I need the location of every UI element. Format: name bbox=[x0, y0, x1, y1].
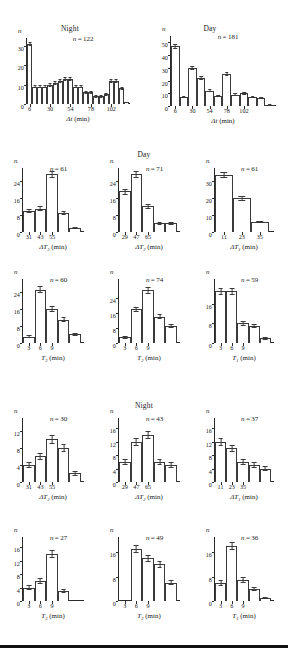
y-axis-label: n bbox=[110, 269, 114, 276]
histogram-panel-r5c1: 0481216369nn = 27T3 (min) bbox=[22, 537, 84, 601]
histogram-panel-r3c2: 081624369nn = 74T2 (min) bbox=[118, 279, 180, 343]
histogram-bar bbox=[131, 309, 143, 343]
histogram-panel-r1c1: 01020306305478102nn = 122Δt (min) bbox=[26, 38, 130, 104]
x-tick-label: 6 bbox=[230, 345, 233, 351]
y-tick-label: 4 bbox=[17, 588, 22, 594]
x-tick-label: 6 bbox=[135, 603, 138, 609]
y-tick-label: 0 bbox=[21, 104, 26, 110]
histogram-bar bbox=[171, 46, 180, 106]
y-tick-label: 0 bbox=[17, 343, 22, 349]
y-tick-label: 16 bbox=[206, 428, 214, 434]
histogram-bar bbox=[35, 209, 47, 232]
section-header-day-top: Day bbox=[150, 24, 270, 33]
y-axis-label: n bbox=[206, 269, 210, 276]
y-axis bbox=[22, 279, 23, 343]
histogram-bar bbox=[214, 96, 223, 106]
x-axis-label: Δt (min) bbox=[170, 118, 276, 125]
y-tick-label: 16 bbox=[110, 313, 118, 319]
y-axis-label: n bbox=[18, 28, 22, 35]
plot-area: 010203040506305478102 bbox=[170, 36, 276, 106]
histogram-bar bbox=[251, 222, 269, 232]
y-tick-label: 50 bbox=[162, 42, 170, 48]
x-tick-label: 29 bbox=[122, 234, 128, 240]
y-tick-label: 24 bbox=[14, 181, 22, 187]
y-tick-label: 8 bbox=[17, 326, 22, 332]
y-tick-label: 16 bbox=[206, 304, 214, 310]
x-tick-label: 3 bbox=[123, 603, 126, 609]
x-tick-label: 9 bbox=[241, 603, 244, 609]
x-tick-label: 6 bbox=[28, 106, 31, 112]
x-tick-label: 3 bbox=[123, 345, 126, 351]
histogram-panel-r2c1: 081624314355nn = 61ΔT3 (min) bbox=[22, 168, 84, 232]
histogram-panel-r2c3: 0102030112335nn = 61ΔT1 (min) bbox=[214, 168, 274, 232]
sample-size-label: n = 30 bbox=[50, 416, 67, 423]
y-tick-label: 0 bbox=[17, 601, 22, 607]
x-axis-label: ΔT3 (min) bbox=[22, 244, 84, 253]
histogram-bar bbox=[197, 78, 206, 106]
y-tick-label: 8 bbox=[209, 577, 214, 583]
x-axis-label: T3 (min) bbox=[22, 613, 84, 622]
sample-size-label: n = 49 bbox=[146, 535, 163, 542]
y-tick-label: 0 bbox=[209, 601, 214, 607]
y-tick-label: 16 bbox=[206, 552, 214, 558]
histogram-bar bbox=[69, 334, 81, 343]
y-tick-label: 8 bbox=[209, 323, 214, 329]
x-tick-label: 11 bbox=[221, 234, 227, 240]
histogram-bar bbox=[35, 456, 47, 482]
histogram-bar bbox=[180, 97, 189, 106]
histogram-bar bbox=[131, 549, 143, 601]
x-tick-label: 3 bbox=[219, 345, 222, 351]
y-tick-label: 8 bbox=[209, 455, 214, 461]
plot-area: 081624314355 bbox=[22, 168, 84, 232]
x-axis-label: T2 (min) bbox=[118, 355, 180, 364]
histogram-bar bbox=[249, 326, 260, 343]
y-tick-label: 24 bbox=[110, 181, 118, 187]
histogram-bar bbox=[46, 439, 58, 482]
sample-size-label: n = 43 bbox=[146, 416, 163, 423]
histogram-bar bbox=[215, 442, 226, 482]
histogram-bar bbox=[240, 93, 249, 106]
x-axis-label: ΔT2 (min) bbox=[118, 244, 180, 253]
histogram-panel-r1c2: 010203040506305478102nn = 181Δt (min) bbox=[170, 36, 276, 106]
x-tick-label: 9 bbox=[241, 345, 244, 351]
x-tick-label: 55 bbox=[49, 484, 55, 490]
y-tick-label: 24 bbox=[14, 292, 22, 298]
x-tick-label: 6 bbox=[230, 603, 233, 609]
sample-size-label: n = 36 bbox=[241, 535, 258, 542]
x-tick-label: 6 bbox=[39, 603, 42, 609]
x-tick-label: 31 bbox=[26, 484, 32, 490]
y-tick-label: 16 bbox=[14, 309, 22, 315]
y-tick-label: 30 bbox=[18, 46, 26, 52]
histogram-bar bbox=[154, 564, 166, 601]
x-tick-label: 47 bbox=[133, 234, 139, 240]
x-tick-label: 9 bbox=[50, 345, 53, 351]
x-axis-label: T2 (min) bbox=[118, 613, 180, 622]
y-axis-label: n bbox=[206, 527, 210, 534]
x-tick-label: 35 bbox=[240, 484, 246, 490]
histogram-bar bbox=[260, 338, 271, 343]
histogram-bar bbox=[165, 326, 177, 343]
y-tick-label: 12 bbox=[14, 431, 22, 437]
y-tick-label: 4 bbox=[17, 465, 22, 471]
y-tick-label: 16 bbox=[110, 428, 118, 434]
y-tick-label: 0 bbox=[113, 232, 118, 238]
x-tick-label: 65 bbox=[145, 234, 151, 240]
histogram-bar bbox=[142, 558, 154, 601]
histogram-bar bbox=[265, 105, 274, 106]
histogram-bar bbox=[165, 465, 177, 482]
histogram-bar bbox=[237, 323, 248, 343]
y-tick-label: 0 bbox=[113, 601, 118, 607]
sample-size-label: n = 122 bbox=[73, 36, 94, 43]
plot-area: 0481216294765 bbox=[118, 418, 180, 482]
y-tick-label: 16 bbox=[110, 198, 118, 204]
sample-size-label: n = 37 bbox=[241, 416, 258, 423]
plot-area: 0102030112335 bbox=[214, 168, 274, 232]
x-tick-label: 65 bbox=[145, 484, 151, 490]
x-axis-label: T3 (min) bbox=[22, 355, 84, 364]
figure-page: Night Day Day Night 01020306305478102nn … bbox=[0, 0, 288, 657]
section-header-day-mid: Day bbox=[0, 150, 288, 159]
histogram-bar bbox=[69, 473, 81, 482]
histogram-panel-r3c3: 0816369nn = 59T1 (min) bbox=[214, 279, 274, 343]
bottom-rule bbox=[0, 645, 288, 648]
plot-area: 081624369 bbox=[118, 279, 180, 343]
